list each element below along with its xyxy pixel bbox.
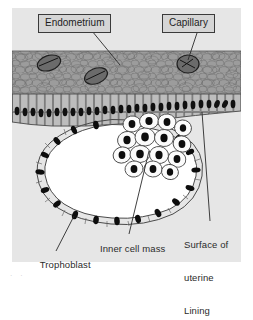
callout-endometrium-label: Endometrium (45, 17, 104, 28)
capillary-right (177, 55, 199, 73)
label-surface-line3: Lining (184, 305, 228, 316)
leader-trophoblast (56, 216, 74, 251)
label-inner-cell-mass-text: Inner cell mass (100, 243, 165, 254)
label-surface-line1: Surface of (184, 239, 228, 250)
leader-surface (202, 112, 210, 221)
callout-endometrium[interactable]: Endometrium (38, 14, 111, 33)
label-surface-uterine-lining: Surface of uterine Lining (184, 217, 228, 320)
callout-capillary[interactable]: Capillary (162, 14, 215, 33)
label-inner-cell-mass: Inner cell mass (89, 232, 165, 265)
label-trophoblast: Trophoblast (29, 248, 91, 281)
scan-artifact-text: · · (10, 272, 26, 279)
label-trophoblast-text: Trophoblast (40, 259, 91, 270)
label-surface-line2: uterine (184, 272, 228, 283)
callout-capillary-label: Capillary (169, 17, 208, 28)
